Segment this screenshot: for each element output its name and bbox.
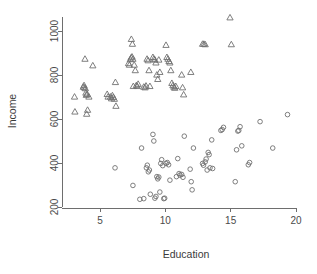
data-points-layer: [71, 14, 289, 201]
data-point-circle: [258, 119, 263, 124]
x-tick-label: 15: [225, 215, 237, 226]
data-point-circle: [234, 148, 239, 153]
plot-canvas: 20040060080010005101520 Education Income: [0, 0, 317, 274]
data-point-circle: [182, 134, 187, 139]
y-axis-title: Income: [6, 94, 18, 129]
data-point-circle: [152, 139, 157, 144]
scatter-plot-figure: 20040060080010005101520 Education Income: [0, 0, 317, 274]
data-point-circle: [239, 144, 244, 149]
data-point-circle: [285, 112, 290, 117]
data-point-triangle: [71, 94, 77, 100]
data-point-circle: [131, 183, 136, 188]
y-tick-label: 1000: [49, 19, 60, 42]
series-circle-group: [113, 112, 290, 201]
y-tick-label: 800: [49, 66, 60, 83]
data-point-circle: [191, 146, 196, 151]
x-tick-label: 20: [290, 215, 302, 226]
data-point-circle: [148, 192, 153, 197]
y-tick-label: 200: [49, 198, 60, 215]
data-point-triangle: [228, 41, 234, 47]
data-point-circle: [113, 166, 118, 171]
data-point-triangle: [188, 69, 194, 75]
data-point-circle: [209, 138, 214, 143]
data-point-triangle: [227, 14, 233, 20]
data-point-triangle: [90, 62, 96, 68]
data-point-triangle: [112, 79, 118, 85]
data-point-triangle: [181, 91, 187, 97]
data-point-triangle: [179, 84, 185, 90]
data-point-circle: [233, 179, 238, 184]
data-point-triangle: [72, 109, 78, 115]
data-point-circle: [270, 146, 275, 151]
x-tick-label: 5: [97, 215, 103, 226]
series-triangle-group: [71, 14, 234, 116]
data-point-circle: [151, 132, 156, 137]
data-point-circle: [189, 179, 194, 184]
y-tick-label: 400: [49, 154, 60, 171]
x-axis-title: Education: [163, 248, 210, 260]
data-point-triangle: [113, 103, 119, 109]
data-point-triangle: [163, 42, 169, 48]
data-point-triangle: [128, 36, 134, 42]
data-point-triangle: [132, 67, 138, 73]
data-point-circle: [168, 178, 173, 183]
axes-layer: 20040060080010005101520: [49, 17, 302, 226]
y-tick-label: 600: [49, 110, 60, 127]
data-point-triangle: [82, 56, 88, 62]
data-point-circle: [190, 188, 195, 193]
data-point-circle: [175, 156, 180, 161]
data-point-triangle: [131, 62, 137, 68]
data-point-triangle: [146, 67, 152, 73]
data-point-circle: [158, 190, 163, 195]
data-point-triangle: [168, 67, 174, 73]
x-tick-label: 10: [160, 215, 172, 226]
data-point-circle: [139, 146, 144, 151]
data-point-circle: [204, 157, 209, 162]
data-point-triangle: [157, 69, 163, 75]
data-point-triangle: [179, 72, 185, 78]
data-point-circle: [188, 167, 193, 172]
